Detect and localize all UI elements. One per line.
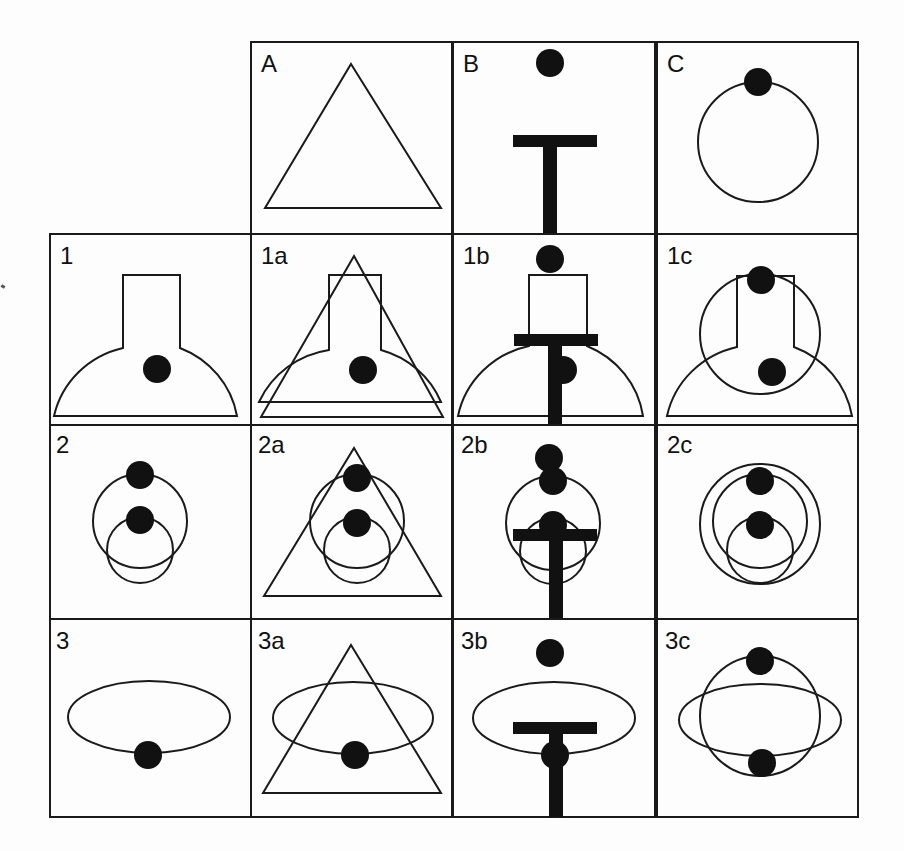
dot-shape [746,511,774,539]
cell-label-3b: 3b [461,627,488,654]
t-bar-vertical [543,145,557,233]
triangle-shape [263,645,441,793]
dot-shape [541,741,569,769]
cell-label-B: B [463,50,479,77]
cell-label-2a: 2a [258,431,285,458]
cell-1b: 1b [453,234,655,425]
dot-shape [341,741,369,769]
cell-label-A: A [261,50,277,77]
dot-shape [536,245,564,273]
cell-2b: 2b [453,425,655,619]
cell-label-1c: 1c [667,242,692,269]
cell-1c: 1c [657,234,858,425]
cell-label-C: C [667,50,684,77]
dot-shape [746,467,774,495]
cell-frame [50,234,251,425]
dot-shape [536,639,564,667]
cell-3a: 3a [251,619,452,817]
dot-shape [758,358,786,386]
cell-label-3: 3 [56,627,69,654]
dot-shape [343,464,371,492]
t-bar-vertical [549,539,563,619]
cell-label-3a: 3a [258,627,285,654]
cell-label-3c: 3c [665,627,690,654]
cell-3c: 3c [657,619,858,817]
circle-shape [698,82,818,202]
cell-1a: 1a [251,234,452,425]
bell-shape [667,276,852,416]
dot-shape [134,741,162,769]
dot-shape [343,509,371,537]
cell-label-2: 2 [56,431,69,458]
dot-shape [349,356,377,384]
dot-shape [539,467,567,495]
shape-composition-figure: A B C 1 1a 1b 1c [0,0,904,851]
cell-label-1b: 1b [463,242,490,269]
cell-frame [251,42,452,234]
cell-1: 1 [50,234,251,425]
dot-shape [143,355,171,383]
cell-label-1: 1 [60,242,73,269]
cell-3: 3 [50,619,251,817]
cell-frame [50,619,251,817]
triangle-shape [265,64,441,208]
ellipse-shape [679,684,841,756]
cell-label-1a: 1a [261,242,288,269]
dot-shape [126,506,154,534]
bell-shape [54,275,237,416]
dot-shape [744,68,772,96]
cell-label-2c: 2c [667,431,692,458]
cell-3b: 3b [453,619,655,817]
triangle-shape [261,256,443,417]
t-bar-vertical [548,344,562,425]
cell-2a: 2a [251,425,452,619]
cell-2: 2 [50,425,251,619]
dot-shape [126,461,154,489]
cell-label-2b: 2b [461,431,488,458]
cell-A: A [251,42,452,234]
cell-2c: 2c [657,425,858,619]
cell-C: C [657,42,858,234]
bell-shape [259,275,441,402]
dot-shape [747,266,775,294]
dot-shape [536,49,564,77]
dot-shape [746,647,774,675]
dot-shape [748,749,776,777]
cell-B: B [453,42,655,234]
